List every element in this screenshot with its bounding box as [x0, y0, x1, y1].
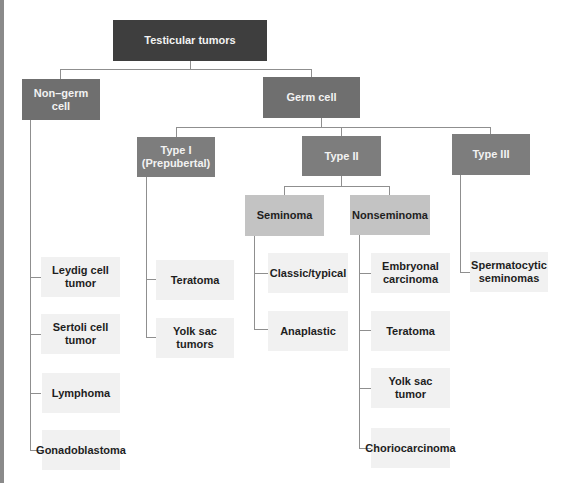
leaf-choriocarcinoma: Choriocarcinoma: [371, 428, 450, 468]
leaf-sertoli-cell-tumor: Sertoli cell tumor: [41, 314, 120, 354]
connector-to-germ: [311, 69, 312, 77]
connector-lymphoma: [30, 393, 41, 394]
leaf-gonadoblastoma: Gonadoblastoma: [42, 430, 120, 470]
connector-classic: [254, 273, 268, 274]
leaf-leydig-cell-tumor: Leydig cell tumor: [41, 257, 120, 297]
leaf-embryonal-carcinoma: Embryonal carcinoma: [371, 253, 450, 293]
node-label: Anaplastic: [280, 325, 336, 338]
connector-to-type1: [176, 127, 177, 137]
node-label: Choriocarcinoma: [365, 442, 455, 455]
leaf-yolk-sac-tumors: Yolk sac tumors: [156, 318, 234, 358]
node-type-3: Type III: [452, 134, 530, 175]
node-label: Testicular tumors: [144, 34, 236, 47]
node-testicular-tumors: Testicular tumors: [113, 20, 267, 61]
node-label: Gonadoblastoma: [36, 444, 126, 457]
node-label: Classic/typical: [270, 267, 346, 280]
node-label-line2: seminomas: [479, 272, 540, 285]
connector-nonsem-teratoma: [359, 330, 371, 331]
node-label: Teratoma: [171, 274, 220, 287]
node-type-1: Type I (Prepubertal): [137, 137, 215, 177]
node-label: Type III: [472, 148, 509, 161]
connector-to-type2: [341, 127, 342, 136]
node-non-germ-cell: Non–germ cell: [22, 79, 100, 120]
node-label: Lymphoma: [52, 387, 110, 400]
leaf-classic-typical: Classic/typical: [268, 253, 348, 293]
connector-type1-spine: [146, 177, 147, 337]
leaf-spermatocytic-seminomas: Spermatocytic seminomas: [470, 252, 548, 292]
connector-root-down: [190, 61, 191, 69]
node-label: Yolk sac tumors: [160, 325, 230, 351]
left-edge-strip: [0, 0, 4, 483]
connector-nonseminoma-spine: [359, 235, 360, 449]
connector-non-germ-spine: [30, 120, 31, 451]
node-label-line1: Spermatocytic: [471, 259, 547, 272]
connector-to-type3: [490, 127, 491, 134]
node-label: Seminoma: [257, 209, 313, 222]
leaf-anaplastic: Anaplastic: [268, 311, 348, 351]
node-label-line1: Embryonal: [382, 260, 439, 273]
connector-type2-horizontal: [284, 186, 390, 187]
node-seminoma: Seminoma: [245, 195, 324, 236]
node-label-line2: carcinoma: [383, 273, 438, 286]
node-type-2: Type II: [302, 136, 381, 176]
connector-seminoma-spine: [254, 236, 255, 329]
node-label: Non–germ cell: [26, 87, 96, 113]
connector-embryonal: [359, 273, 371, 274]
node-label-line1: Type I: [161, 144, 192, 157]
node-nonseminoma: Nonseminoma: [350, 195, 430, 235]
node-germ-cell: Germ cell: [263, 77, 360, 118]
connector-sertoli: [30, 334, 41, 335]
connector-germ-down: [321, 118, 322, 127]
node-label: Teratoma: [386, 325, 435, 338]
connector-type3-spine: [460, 175, 461, 272]
node-label-line2: (Prepubertal): [142, 157, 210, 170]
connector-yolk-sac-tumor: [359, 388, 371, 389]
node-label: Leydig cell tumor: [45, 264, 116, 290]
connector-to-nonseminoma: [389, 186, 390, 195]
node-label: Yolk sac tumor: [375, 375, 446, 401]
connector-to-non-germ: [60, 69, 61, 79]
leaf-yolk-sac-tumor: Yolk sac tumor: [371, 368, 450, 408]
leaf-nonsem-teratoma: Teratoma: [371, 311, 450, 351]
connector-spermatocytic: [460, 272, 470, 273]
connector-type2-down: [341, 176, 342, 186]
node-label: Nonseminoma: [352, 209, 428, 222]
connector-type1-teratoma: [146, 279, 156, 280]
connector-type1-yolk: [146, 337, 156, 338]
connector-germ-horizontal: [176, 127, 491, 128]
connector-root-horizontal: [60, 69, 312, 70]
node-label: Type II: [324, 150, 358, 163]
leaf-type1-teratoma: Teratoma: [156, 260, 234, 300]
connector-to-seminoma: [284, 186, 285, 195]
node-label: Sertoli cell tumor: [45, 321, 116, 347]
connector-anaplastic: [254, 329, 268, 330]
node-label: Germ cell: [286, 91, 336, 104]
leaf-lymphoma: Lymphoma: [42, 373, 120, 413]
connector-leydig: [30, 277, 41, 278]
